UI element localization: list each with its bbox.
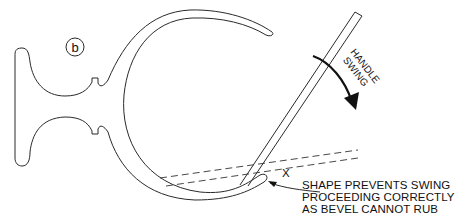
handle-swing-label: HANDLE SWING (340, 46, 383, 92)
tool-handle-outline-top (22, 48, 108, 96)
bevel-dashed-line-upper (160, 150, 358, 178)
callout-line-3: AS BEVEL CANNOT RUB (302, 203, 438, 215)
callout-line-2: PROCEEDING CORRECTLY (302, 191, 455, 203)
tool-handle-outline (15, 48, 108, 166)
panel-label: b (71, 40, 78, 55)
swing-arrow-head-icon (344, 92, 359, 110)
blade-outer-curve (108, 10, 273, 200)
x-mark: X (282, 167, 290, 179)
gouge-diagram: b HANDLE SWING X SHAPE PREVENTS SWING PR… (0, 0, 457, 222)
callout-line-1: SHAPE PREVENTS SWING (302, 179, 450, 191)
callout-arrowhead-icon (268, 181, 277, 187)
